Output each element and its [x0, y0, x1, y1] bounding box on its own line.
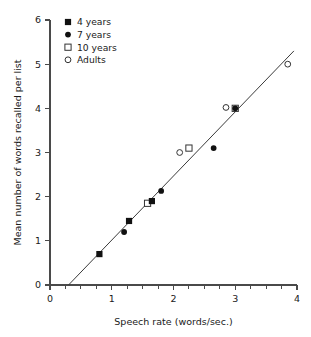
legend-item-label: 4 years — [77, 16, 111, 27]
x-tick-label: 3 — [232, 293, 238, 304]
x-tick-label: 2 — [170, 293, 176, 304]
x-tick-label: 1 — [109, 293, 115, 304]
legend-item: 4 years — [65, 16, 111, 27]
y-tick-label: 5 — [35, 59, 41, 70]
y-tick-label: 1 — [35, 235, 41, 246]
data-point-filled-circle — [211, 145, 217, 151]
y-tick-label: 2 — [35, 191, 41, 202]
y-tick-label: 3 — [35, 147, 41, 158]
scatter-chart: 012340123456Speech rate (words/sec.)Mean… — [0, 0, 311, 337]
y-axis-title: Mean number of words recalled per list — [12, 59, 23, 245]
data-point-filled-square — [149, 198, 155, 204]
legend-marker-filled-circle — [65, 32, 71, 38]
data-point-filled-square — [126, 218, 132, 224]
data-point-open-circle — [223, 105, 229, 111]
legend-item: 7 years — [65, 29, 111, 40]
x-axis-title: Speech rate (words/sec.) — [114, 316, 232, 327]
data-point-filled-square — [96, 251, 102, 257]
data-points — [96, 61, 290, 257]
data-point-open-circle — [285, 61, 291, 67]
data-point-filled-circle — [158, 188, 164, 194]
y-tick-label: 4 — [35, 103, 41, 114]
data-point-filled-circle — [121, 229, 127, 235]
legend: 4 years7 years10 yearsAdults — [65, 16, 117, 65]
y-axis-ticks: 0123456 — [35, 14, 50, 290]
data-point-filled-circle — [232, 105, 238, 111]
y-tick-label: 0 — [35, 279, 41, 290]
data-point-open-circle — [177, 150, 183, 156]
x-axis-ticks: 01234 — [47, 285, 300, 304]
data-point-open-square — [186, 145, 192, 151]
legend-item: 10 years — [65, 42, 117, 53]
legend-item-label: 7 years — [77, 29, 111, 40]
legend-item: Adults — [65, 54, 106, 65]
legend-marker-open-circle — [65, 57, 71, 63]
x-tick-label: 0 — [47, 293, 53, 304]
y-tick-label: 6 — [35, 14, 41, 25]
legend-item-label: 10 years — [77, 42, 117, 53]
legend-marker-filled-square — [65, 19, 71, 25]
x-tick-label: 4 — [294, 293, 300, 304]
trend-line — [69, 51, 294, 285]
legend-marker-open-square — [65, 44, 71, 50]
legend-item-label: Adults — [77, 54, 106, 65]
